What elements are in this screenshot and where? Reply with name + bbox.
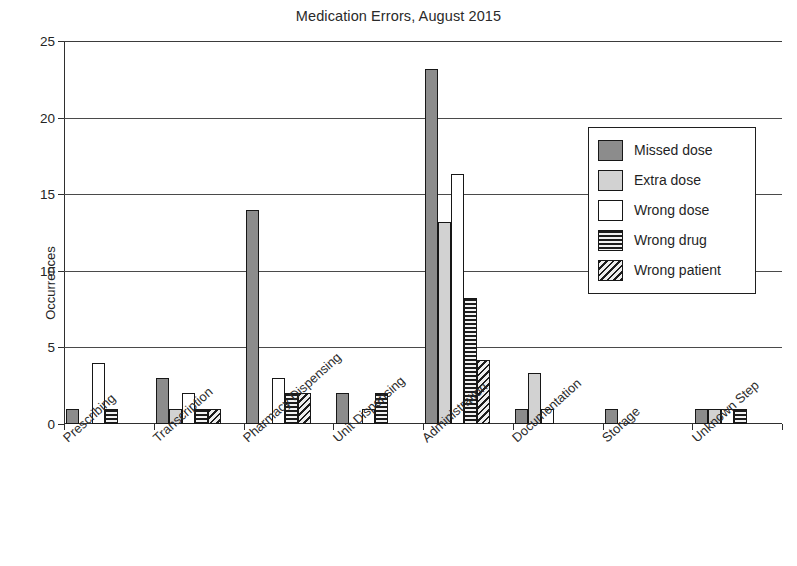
y-tick-mark-10 <box>58 271 64 272</box>
bars-row <box>425 41 490 424</box>
legend-label-missed-dose: Missed dose <box>634 142 713 158</box>
y-tick-mark-20 <box>58 118 64 119</box>
legend-swatch-extra-dose-icon <box>598 170 623 191</box>
figure-medication-errors: Medication Errors, August 2015 Occurrenc… <box>0 0 797 566</box>
bars-row <box>156 41 221 424</box>
y-tick-label-20: 20 <box>40 110 55 125</box>
bar-group-documentation <box>515 41 580 424</box>
legend-item-wrong-patient[interactable]: Wrong patient <box>598 255 747 285</box>
bar-group-transcription <box>156 41 221 424</box>
y-axis-title: Occurrences <box>43 246 58 320</box>
x-tick-mark-end <box>782 424 783 430</box>
legend-label-wrong-drug: Wrong drug <box>634 232 707 248</box>
bar-group-prescribing <box>66 41 131 424</box>
legend-item-wrong-dose[interactable]: Wrong dose <box>598 195 747 225</box>
y-tick-label-15: 15 <box>40 187 55 202</box>
bar-missed-dose <box>425 69 438 424</box>
y-tick-label-10: 10 <box>40 263 55 278</box>
bars-row <box>246 41 311 424</box>
bars-row <box>336 41 401 424</box>
y-tick-mark-15 <box>58 194 64 195</box>
legend-swatch-wrong-patient-icon <box>598 260 623 281</box>
chart-title: Medication Errors, August 2015 <box>0 8 797 24</box>
bar-extra-dose <box>438 222 451 424</box>
bars-row <box>515 41 580 424</box>
y-tick-mark-5 <box>58 347 64 348</box>
legend-label-extra-dose: Extra dose <box>634 172 701 188</box>
legend-swatch-missed-dose-icon <box>598 140 623 161</box>
y-tick-label-25: 25 <box>40 34 55 49</box>
y-tick-label-5: 5 <box>47 340 55 355</box>
y-tick-label-0: 0 <box>47 417 55 432</box>
legend-swatch-wrong-drug-icon <box>598 230 623 251</box>
bar-wrong-dose <box>451 174 464 424</box>
legend-swatch-wrong-dose-icon <box>598 200 623 221</box>
bar-group-pharmacy-dispensing <box>246 41 311 424</box>
legend-item-extra-dose[interactable]: Extra dose <box>598 165 747 195</box>
bars-row <box>66 41 131 424</box>
y-axis-line <box>64 41 65 424</box>
legend-label-wrong-patient: Wrong patient <box>634 262 721 278</box>
y-tick-mark-25 <box>58 41 64 42</box>
legend-label-wrong-dose: Wrong dose <box>634 202 709 218</box>
bar-group-administration <box>425 41 490 424</box>
legend-item-missed-dose[interactable]: Missed dose <box>598 135 747 165</box>
legend-item-wrong-drug[interactable]: Wrong drug <box>598 225 747 255</box>
legend: Missed doseExtra doseWrong doseWrong dru… <box>588 127 756 294</box>
bar-group-unit-dispensing <box>336 41 401 424</box>
bar-missed-dose <box>246 210 259 424</box>
bar-wrong-patient <box>208 409 221 424</box>
